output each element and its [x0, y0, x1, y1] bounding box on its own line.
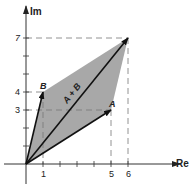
vector-b-label: B [40, 81, 47, 91]
vector-a-label: A [108, 99, 116, 109]
re-axis-label: Re [176, 158, 189, 169]
x-tick-label-5: 5 [109, 169, 114, 179]
x-tick-label-1: 1 [41, 169, 46, 179]
x-tick-label-6: 6 [126, 169, 131, 179]
y-tick-label-7: 7 [15, 33, 21, 43]
y-tick-label-4: 4 [15, 87, 20, 97]
complex-plane-diagram: Im Re 1 5 6 7 4 3 A B A + B [0, 0, 192, 186]
y-tick-label-3: 3 [15, 105, 20, 115]
im-axis-label: Im [30, 6, 42, 17]
